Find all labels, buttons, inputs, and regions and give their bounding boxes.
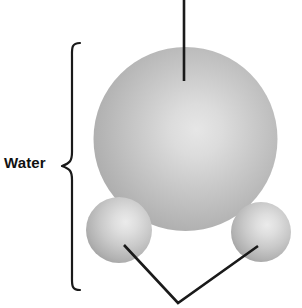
water-label: Water xyxy=(4,154,46,172)
water-brace xyxy=(62,43,80,290)
hydrogen-leader-lines xyxy=(124,245,258,303)
water-molecule-figure: Water xyxy=(0,0,302,308)
